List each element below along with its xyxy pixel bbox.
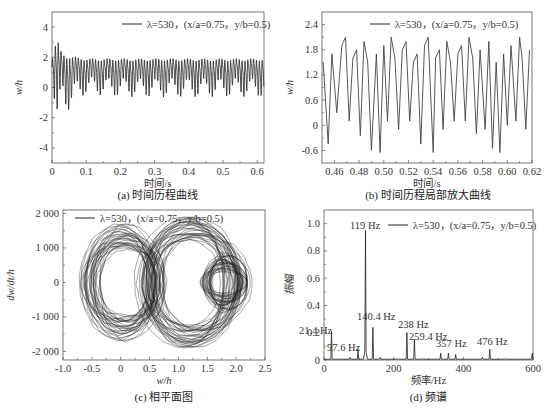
y-axis-label: w/h [284,80,295,95]
y-axis-label: 振幅 [284,272,295,295]
x-tick-label: 2.5 [258,363,271,374]
panel-b-zoomed-time-history: 0.460.480.500.520.540.560.580.600.62-0.6… [275,0,549,207]
panel-c-phase-plane: -1.0-0.500.51.01.52.02.5-2 000-1 00001 0… [0,207,275,414]
plot-frame [52,12,264,163]
y-axis-label: dw/dt/h [5,269,16,301]
y-tick-label: 4 [43,22,49,33]
y-tick-label: 0.4 [307,300,321,311]
chart-c: -1.0-0.500.51.01.52.02.5-2 000-1 00001 0… [0,207,275,414]
peak-label: 140.4 Hz [357,311,396,322]
x-tick-label: -1.0 [55,363,72,374]
x-tick-label: 1.0 [172,363,185,374]
peak-label: 476 Hz [477,336,508,347]
x-tick-label: 200 [386,363,402,374]
x-tick-label: 600 [525,363,541,374]
x-tick-label: 1.5 [201,363,214,374]
x-tick-label: 0.62 [523,166,541,177]
x-axis-label: w/h [156,375,171,386]
y-tick-label: 0.6 [307,273,320,284]
y-tick-label: 1.0 [307,218,320,229]
x-tick-label: 0.3 [148,166,161,177]
x-tick-label: 0 [49,166,54,177]
x-tick-label: 0.5 [216,166,229,177]
chart-a: 00.10.20.30.40.50.6-4-2024时间/sw/hλ=530，(… [0,0,275,207]
x-tick-label: 0.46 [325,166,343,177]
y-tick-label: 1.2 [305,69,318,80]
x-tick-label: 0.4 [182,166,196,177]
x-tick-label: 0.52 [399,166,417,177]
x-tick-label: 0 [321,363,326,374]
x-tick-label: 0.58 [473,166,491,177]
phase-trajectory [79,217,252,348]
y-tick-label: 0 [54,277,59,288]
caption-c: (c) 相平面图 [63,388,265,404]
y-tick-label: -2 [39,112,48,123]
series-line [52,43,264,110]
y-tick-label: -4 [39,142,48,153]
peak-label-119: 119 Hz [350,220,381,231]
y-tick-label: 1 000 [35,242,59,253]
legend-label: λ=530，(x/a=0.75，y/b=0.5) [413,220,537,232]
y-tick-label: 0 [315,355,320,366]
y-tick-label: -0.6 [301,145,318,156]
x-tick-label: 0.6 [251,166,264,177]
y-axis-label: w/h [13,80,24,95]
chart-b: 0.460.480.500.520.540.560.580.600.62-0.6… [275,0,549,207]
caption-a: (a) 时间历程曲线 [52,186,264,202]
y-tick-label: 0 [43,82,48,93]
y-tick-label: 0.8 [307,245,320,256]
y-tick-label: 2.4 [305,19,319,30]
legend-label: λ=530，(x/a=0.75，y/b=0.5) [147,19,271,31]
y-tick-label: 0.6 [305,95,318,106]
caption-b: (b) 时间历程局部放大曲线 [322,186,534,202]
x-tick-label: 0.1 [80,166,93,177]
x-tick-label: 0.5 [143,363,156,374]
x-tick-label: 0.2 [114,166,127,177]
x-tick-label: 0.50 [375,166,393,177]
series-line [323,37,529,152]
y-tick-label: 1.8 [305,44,318,55]
x-tick-label: 0 [118,363,123,374]
peak-label: 357 Hz [436,338,467,349]
legend: 119 Hzλ=530，(x/a=0.75，y/b=0.5) [350,220,537,232]
panel-a-time-history: 00.10.20.30.40.50.6-4-2024时间/sw/hλ=530，(… [0,0,275,207]
caption-d: (d) 频谱 [324,388,533,404]
legend: λ=530，(x/a=0.75，y/b=0.5) [370,19,519,31]
x-tick-label: 0.48 [350,166,368,177]
panel-d-spectrum: 020040060000.20.40.60.81.0频率/Hz振幅21.4 Hz… [275,207,549,414]
y-tick-label: 2 000 [35,208,59,219]
x-tick-label: 2.0 [230,363,243,374]
x-tick-label: -0.5 [84,363,101,374]
peak-label: 238 Hz [398,319,429,330]
x-tick-label: 0.60 [498,166,516,177]
x-axis-label: 频率/Hz [411,374,447,386]
peak-label: 21.4 Hz [299,325,333,336]
y-tick-label: 0 [313,120,318,131]
y-tick-label: -2 000 [32,346,59,357]
legend-label: λ=530，(x/a=0.75，y/b=0.5) [395,19,519,31]
y-tick-label: -1 000 [32,311,59,322]
x-tick-label: 0.54 [424,166,443,177]
x-tick-label: 400 [455,363,471,374]
legend-label: λ=530，(x/a=0.75，y/b=0.5) [100,213,224,225]
legend: λ=530，(x/a=0.75，y/b=0.5) [122,19,271,31]
peak-label: 97.6 Hz [327,342,361,353]
legend: λ=530，(x/a=0.75，y/b=0.5) [75,213,224,225]
y-tick-label: 2 [43,52,48,63]
chart-d: 020040060000.20.40.60.81.0频率/Hz振幅21.4 Hz… [275,207,549,414]
x-tick-label: 0.56 [449,166,467,177]
